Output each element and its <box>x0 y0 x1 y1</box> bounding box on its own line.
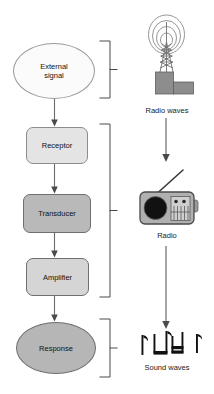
radio-tower-icon <box>149 15 194 94</box>
bracket-middle <box>100 124 117 297</box>
flow-node-label: External signal <box>40 62 68 80</box>
caption-sound-waves: Sound waves <box>122 363 212 372</box>
diagram-canvas: External signal Receptor Transducer Ampl… <box>0 0 214 394</box>
bracket-top <box>100 41 117 98</box>
flow-node-label: Receptor <box>42 141 72 150</box>
flow-node-external-signal[interactable]: External signal <box>13 43 95 99</box>
flow-node-label: Amplifier <box>43 273 72 282</box>
flow-node-amplifier[interactable]: Amplifier <box>26 258 89 296</box>
radio-receiver-icon <box>140 170 198 224</box>
flow-node-receptor[interactable]: Receptor <box>26 127 88 164</box>
flow-node-label: Transducer <box>38 209 76 218</box>
flow-node-response[interactable]: Response <box>16 322 96 374</box>
flow-node-transducer[interactable]: Transducer <box>23 194 91 233</box>
flow-node-label: Response <box>39 344 73 353</box>
bracket-bottom <box>100 319 117 377</box>
flow-node-label-line1: External <box>40 62 68 71</box>
music-notes-icon <box>142 331 203 355</box>
caption-radio: Radio <box>125 231 209 240</box>
flow-node-label-line2: signal <box>44 71 64 80</box>
caption-radio-waves: Radio waves <box>125 106 209 115</box>
